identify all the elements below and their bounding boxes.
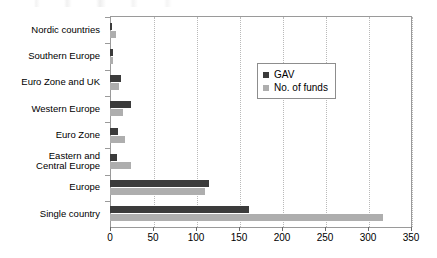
bar-gav	[110, 23, 112, 30]
value-tick-label: 150	[231, 232, 248, 243]
bar-rows	[110, 17, 411, 227]
bar-gav	[110, 154, 117, 161]
legend-label: GAV	[274, 69, 294, 80]
legend-swatch-icon	[263, 72, 269, 78]
value-tick-label: 100	[188, 232, 205, 243]
bar-no-of-funds	[110, 162, 131, 169]
bar-group	[110, 122, 411, 148]
value-tick-label: 0	[107, 232, 113, 243]
legend-label: No. of funds	[274, 82, 328, 93]
value-tick	[282, 227, 283, 231]
chart-container: Nordic countriesSouthern EuropeEuro Zone…	[0, 0, 437, 258]
gridline	[412, 17, 413, 227]
value-tick-label: 250	[317, 232, 334, 243]
bar-gav	[110, 180, 209, 187]
value-axis-tick-labels: 050100150200250300350	[0, 232, 437, 248]
value-tick	[239, 227, 240, 231]
value-tick	[110, 227, 111, 231]
clipped-title-artifact	[34, 0, 194, 7]
bar-gav	[110, 128, 118, 135]
bar-group	[110, 175, 411, 201]
bar-gav	[110, 206, 249, 213]
value-tick-label: 350	[403, 232, 420, 243]
bar-group	[110, 201, 411, 227]
bar-gav	[110, 75, 121, 82]
bar-no-of-funds	[110, 109, 123, 116]
value-tick	[196, 227, 197, 231]
bar-group	[110, 148, 411, 174]
bar-gav	[110, 49, 113, 56]
category-label: Single country	[0, 201, 104, 227]
category-label: Eastern and Central Europe	[0, 148, 104, 174]
category-label: Western Europe	[0, 96, 104, 122]
bar-no-of-funds	[110, 57, 113, 64]
value-tick-label: 50	[147, 232, 158, 243]
legend-item[interactable]: No. of funds	[263, 81, 328, 94]
bar-gav	[110, 101, 131, 108]
bar-group	[110, 96, 411, 122]
category-label: Euro Zone	[0, 122, 104, 148]
value-tick	[153, 227, 154, 231]
legend-swatch-icon	[263, 85, 269, 91]
value-tick-label: 200	[274, 232, 291, 243]
category-label: Nordic countries	[0, 17, 104, 43]
bar-no-of-funds	[110, 31, 116, 38]
bar-group	[110, 17, 411, 43]
bar-no-of-funds	[110, 83, 119, 90]
bar-no-of-funds	[110, 136, 125, 143]
value-tick-label: 300	[360, 232, 377, 243]
value-tick	[368, 227, 369, 231]
category-label: Southern Europe	[0, 43, 104, 69]
legend-item[interactable]: GAV	[263, 68, 328, 81]
category-axis-labels: Nordic countriesSouthern EuropeEuro Zone…	[0, 17, 104, 227]
category-label: Euro Zone and UK	[0, 70, 104, 96]
value-tick	[411, 227, 412, 231]
category-label: Europe	[0, 175, 104, 201]
chart-legend: GAVNo. of funds	[257, 63, 336, 99]
value-tick	[325, 227, 326, 231]
bar-no-of-funds	[110, 214, 383, 221]
bar-no-of-funds	[110, 188, 205, 195]
